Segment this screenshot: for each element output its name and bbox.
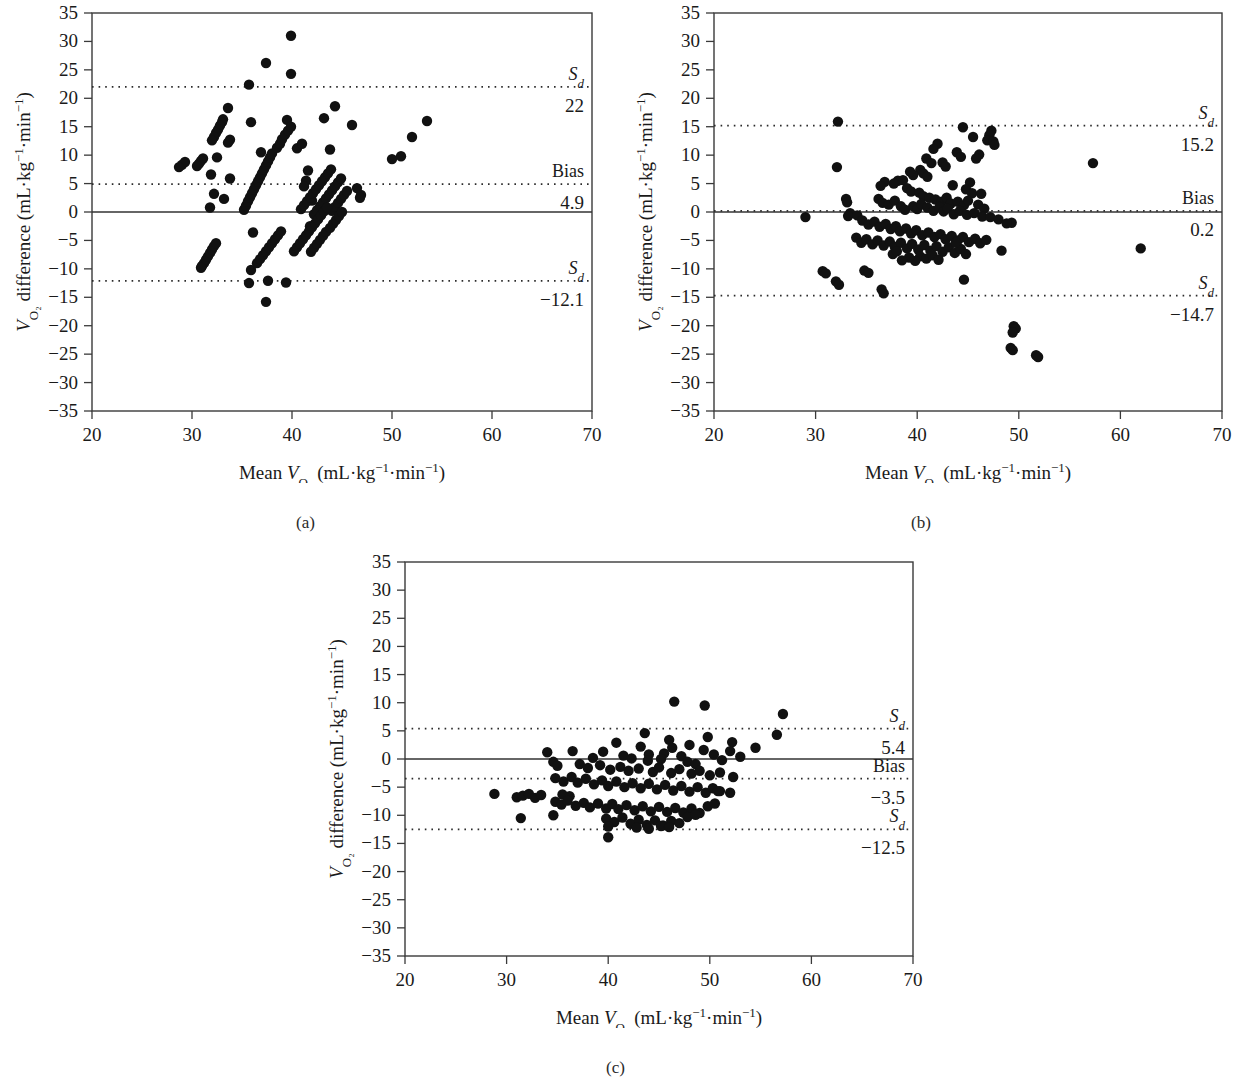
data-point [595,760,605,770]
reference-annotations: Sd15.2Bias0.2Sd−14.7 [1170,103,1214,325]
data-point [611,737,621,747]
data-point [750,743,760,753]
bland-altman-figure: 35302520151050−5−10−15−20−25−30−35203040… [0,0,1246,1077]
data-point [631,822,641,832]
y-tick-label: −25 [361,889,391,910]
data-point [640,728,650,738]
data-point [958,122,968,132]
annotation-label-upper_sd: Sd [890,706,906,733]
y-tick-label: 5 [382,720,392,741]
data-point [778,709,788,719]
plot-c: 35302520151050−5−10−15−20−25−30−35203040… [0,0,937,1028]
data-point [956,152,966,162]
x-tick-label: 40 [599,969,618,990]
data-point [968,132,978,142]
data-point [636,741,646,751]
y-tick-label: 20 [372,635,391,656]
scatter-points [489,696,788,842]
data-point [735,752,745,762]
data-point [971,153,981,163]
data-point [1088,158,1098,168]
data-point [728,772,738,782]
data-point [710,798,720,808]
reference-lines [405,729,913,830]
data-point [940,161,950,171]
panel-caption-c: (c) [606,1058,625,1077]
annotation-value-upper_sd: 15.2 [1181,134,1214,155]
data-point [727,737,737,747]
x-tick-label: 60 [802,969,821,990]
data-point [644,824,654,834]
annotation-value-lower_sd: −14.7 [1170,304,1214,325]
data-point [489,789,499,799]
y-tick-label: 35 [372,551,391,572]
data-point [603,821,613,831]
data-point [605,764,615,774]
y-axis-ticks: 35302520151050−5−10−15−20−25−30−35 [361,551,405,966]
panel-caption-a: (a) [296,513,315,533]
annotation-value-bias: −3.5 [871,787,905,808]
x-axis-ticks: 203040506070 [396,956,923,990]
data-point [664,822,674,832]
data-point [725,788,735,798]
data-point [633,763,643,773]
data-point [669,696,679,706]
y-tick-label: −5 [371,776,391,797]
annotation-value-lower_sd: −12.5 [861,837,905,858]
data-point [959,274,969,284]
data-point [705,770,715,780]
x-tick-label: 50 [1009,424,1028,445]
data-point [725,746,735,756]
data-point [989,140,999,150]
data-point [542,747,552,757]
data-point [552,761,562,771]
annotation-label-lower_sd: Sd [890,806,906,833]
data-point [567,746,577,756]
data-point [700,700,710,710]
data-point [699,745,709,755]
y-tick-label: 10 [372,692,391,713]
data-point [1008,345,1018,355]
x-axis-title: Mean VO₂ (mL·kg−1·min−1) [556,1005,762,1029]
annotation-value-upper_sd: 5.4 [881,737,905,758]
data-point [690,810,700,820]
annotation-label-lower_sd: Sd [1199,273,1215,300]
panel-caption-b: (b) [911,513,931,533]
x-tick-label: 60 [1111,424,1130,445]
y-axis-title: VO₂ difference (mL·kg−1·min−1) [324,639,354,879]
data-point [694,766,704,776]
data-point [643,755,653,765]
annotation-value-bias: 0.2 [1190,219,1214,240]
data-point [717,755,727,765]
data-point [684,740,694,750]
data-point [623,766,633,776]
annotation-label-bias: Bias [1182,188,1214,208]
data-point [654,762,664,772]
data-point [996,245,1006,255]
y-tick-label: 25 [372,607,391,628]
panel-c: 35302520151050−5−10−15−20−25−30−35203040… [0,0,937,1028]
data-point [583,763,593,773]
data-point [976,189,986,199]
svg-text:VO₂ difference (mL·kg−1·min−1): VO₂ difference (mL·kg−1·min−1) [324,639,354,879]
y-tick-label: 15 [372,664,391,685]
data-point [626,753,636,763]
x-tick-label: 50 [700,969,719,990]
y-tick-label: −10 [361,804,391,825]
x-tick-label: 20 [396,969,415,990]
y-tick-label: −30 [361,917,391,938]
data-point [961,249,971,259]
data-point [951,238,961,248]
data-point [674,764,684,774]
data-point [516,813,526,823]
x-tick-label: 30 [497,969,516,990]
data-point [772,730,782,740]
data-point [703,732,713,742]
data-point [536,790,546,800]
x-tick-label: 70 [904,969,923,990]
data-point [715,767,725,777]
y-tick-label: 0 [382,748,392,769]
annotation-label-bias: Bias [873,756,905,776]
y-tick-label: −20 [361,861,391,882]
data-point [963,195,973,205]
